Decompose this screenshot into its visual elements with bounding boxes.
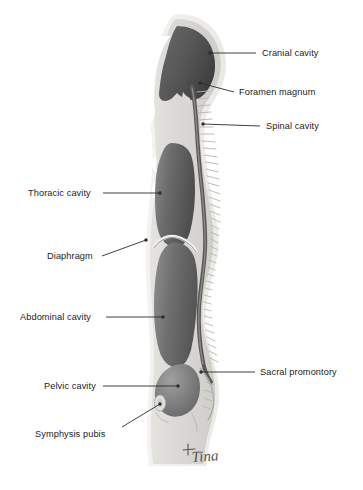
label-thoracic-cavity: Thoracic cavity <box>28 188 91 198</box>
leader-dot-foramen-magnum <box>198 81 201 84</box>
leader-dot-sacral-promontory <box>199 370 202 373</box>
leader-line-spinal-cavity <box>203 124 260 126</box>
leader-dot-spinal-cavity <box>201 122 204 125</box>
label-diaphragm: Diaphragm <box>47 251 93 261</box>
leader-dot-pelvic-cavity <box>176 384 179 387</box>
label-spinal-cavity: Spinal cavity <box>266 121 319 131</box>
leader-dot-abdominal-cavity <box>161 315 164 318</box>
leader-dot-symphysis-pubis <box>158 402 161 405</box>
label-abdominal-cavity: Abdominal cavity <box>20 312 91 322</box>
label-foramen-magnum: Foramen magnum <box>239 87 315 97</box>
label-symphysis-pubis: Symphysis pubis <box>35 429 105 439</box>
svg-text:Tina: Tina <box>191 447 219 465</box>
leader-dot-cranial-cavity <box>208 51 211 54</box>
leader-dot-thoracic-cavity <box>158 191 161 194</box>
leader-dot-diaphragm <box>144 238 147 241</box>
body-cavities-diagram: Tina <box>0 0 363 490</box>
leader-line-diaphragm <box>102 240 146 256</box>
thoracic-cavity-region <box>155 143 195 247</box>
label-pelvic-cavity: Pelvic cavity <box>44 381 96 391</box>
label-cranial-cavity: Cranial cavity <box>262 48 319 58</box>
label-sacral-promontory: Sacral promontory <box>260 367 337 377</box>
abdominal-cavity-region <box>154 242 198 367</box>
